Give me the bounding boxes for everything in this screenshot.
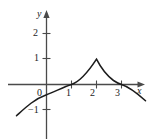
x-axis-label: x — [137, 86, 141, 96]
y-tick-label-2: 2 — [33, 28, 38, 38]
x-tick-label-3: 3 — [115, 88, 120, 98]
y-axis-arrow-icon — [43, 10, 49, 18]
x-tick-label-2: 2 — [90, 88, 95, 98]
y-tick-label-minus-1: −1 — [28, 105, 39, 115]
graph-figure: 2 1 −1 0 1 2 3 y x — [0, 0, 148, 139]
origin-label: 0 — [37, 88, 42, 98]
y-axis-label: y — [37, 9, 41, 19]
y-tick-label-1: 1 — [34, 53, 39, 63]
plot-canvas — [0, 0, 148, 139]
x-tick-label-1: 1 — [66, 88, 71, 98]
